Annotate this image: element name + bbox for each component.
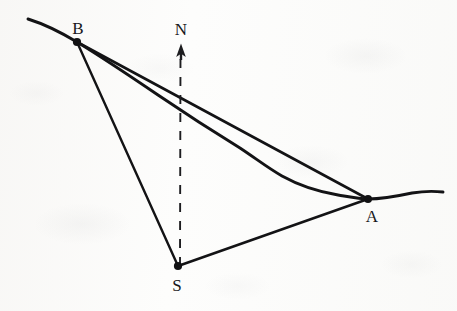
- bearing-diagram: [0, 0, 457, 311]
- figure-page: B A S N: [0, 0, 457, 311]
- coastline-curve: [28, 19, 443, 199]
- label-north: N: [175, 21, 187, 38]
- label-station-s: S: [172, 277, 181, 294]
- station-dot-s: [174, 262, 182, 270]
- label-station-a: A: [366, 208, 378, 225]
- line-s-a: [178, 199, 368, 266]
- station-dot-a: [364, 195, 372, 203]
- north-meridian-dashed-line: [180, 52, 181, 266]
- label-station-b: B: [72, 20, 83, 37]
- station-dot-b: [73, 38, 81, 46]
- line-b-a: [77, 42, 368, 199]
